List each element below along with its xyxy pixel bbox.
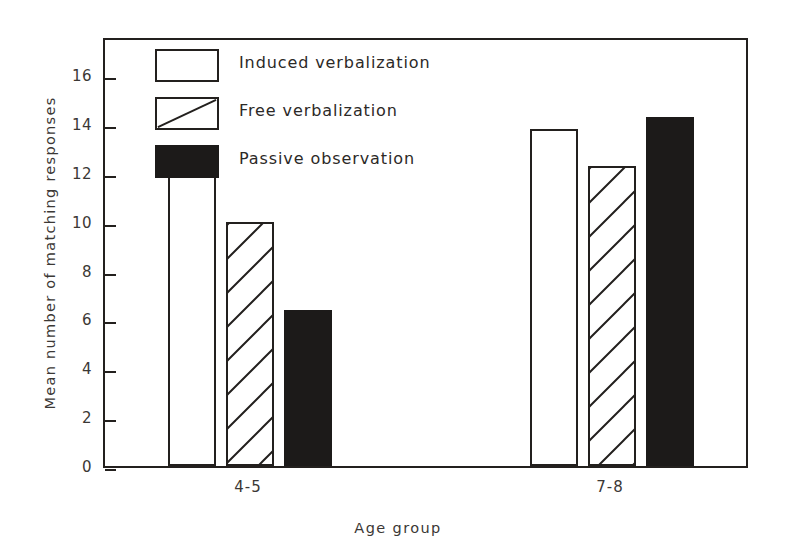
bar-4-5-hatched (226, 222, 274, 466)
x-axis-category-label: 4-5 (188, 478, 308, 496)
y-axis-title: Mean number of matching responses (42, 53, 58, 453)
y-axis-tick-label: 16 (52, 67, 92, 85)
y-axis-tick-label: 10 (52, 214, 92, 232)
bar-chart-figure: Mean number of matching responses 024681… (0, 0, 796, 549)
x-axis-title: Age group (0, 520, 796, 536)
y-axis-tick (105, 225, 116, 227)
y-axis-tick-label: 12 (52, 165, 92, 183)
chart-legend: Induced verbalizationFree verbalizationP… (155, 45, 485, 189)
bar-7-8-solid (646, 117, 694, 466)
legend-label: Induced verbalization (239, 53, 431, 72)
legend-label: Free verbalization (239, 101, 398, 120)
legend-item: Free verbalization (155, 93, 485, 141)
y-axis-tick (105, 127, 116, 129)
bar-4-5-solid (284, 310, 332, 466)
y-axis-tick (105, 420, 116, 422)
open-square-icon (155, 49, 219, 82)
bar-4-5-open (168, 173, 216, 466)
legend-item: Passive observation (155, 141, 485, 189)
diagonal-hatch-icon (590, 168, 634, 465)
legend-item: Induced verbalization (155, 45, 485, 93)
bar-7-8-hatched (588, 166, 636, 467)
y-axis-tick-label: 0 (52, 458, 92, 476)
y-axis-tick (105, 469, 116, 471)
filled-square-icon (155, 145, 219, 178)
y-axis-tick (105, 274, 116, 276)
diagonal-hatch-icon (228, 224, 272, 464)
y-axis-tick (105, 371, 116, 373)
y-axis-tick-label: 8 (52, 263, 92, 281)
legend-label: Passive observation (239, 149, 415, 168)
bar-7-8-open (530, 129, 578, 466)
y-axis-tick-label: 14 (52, 116, 92, 134)
y-axis-tick-label: 4 (52, 360, 92, 378)
hatched-square-icon (155, 97, 219, 130)
diagonal-line-icon (157, 99, 217, 128)
y-axis-tick (105, 176, 116, 178)
y-axis-tick (105, 322, 116, 324)
x-axis-category-label: 7-8 (550, 478, 670, 496)
y-axis-tick-label: 6 (52, 311, 92, 329)
y-axis-tick (105, 78, 116, 80)
y-axis-tick-label: 2 (52, 409, 92, 427)
